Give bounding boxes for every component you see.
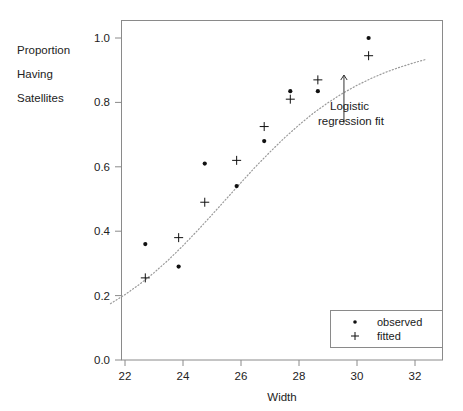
fitted-point [260, 122, 269, 131]
observed-series [143, 36, 371, 269]
observed-point [262, 139, 266, 143]
observed-point [143, 242, 147, 246]
fitted-point [232, 156, 241, 165]
x-tick-label: 28 [293, 370, 306, 382]
legend-observed-dot-icon [353, 320, 357, 324]
observed-point [288, 89, 292, 93]
fitted-point [141, 273, 150, 282]
chart-figure: Proportion Having Satellites 0.00.20.40.… [0, 0, 463, 411]
x-tick-label: 30 [351, 370, 364, 382]
x-tick-label: 32 [409, 370, 422, 382]
fitted-point [364, 51, 373, 60]
fitted-point [200, 198, 209, 207]
y-axis-ticks: 0.00.20.40.60.81.0 [94, 32, 122, 366]
legend-label-fitted: fitted [377, 330, 401, 342]
legend-label-observed: observed [377, 316, 422, 328]
legend: observed fitted [331, 311, 443, 348]
y-tick-label: 0.8 [94, 96, 110, 108]
fitted-point [286, 95, 295, 104]
plot-area: 0.00.20.40.60.81.0 222426283032 Logistic… [0, 0, 463, 411]
fitted-series [141, 51, 373, 282]
y-tick-label: 0.2 [94, 290, 110, 302]
observed-point [367, 36, 371, 40]
y-tick-label: 0.6 [94, 161, 110, 173]
plot-frame [122, 21, 443, 361]
annotation-line-2: regression fit [318, 115, 385, 127]
logistic-curve [111, 59, 427, 303]
x-axis-title: Width [267, 391, 296, 403]
y-tick-label: 0.4 [94, 225, 111, 237]
observed-point [203, 161, 207, 165]
fitted-point [174, 233, 183, 242]
observed-point [235, 184, 239, 188]
y-tick-label: 1.0 [94, 32, 110, 44]
x-axis-ticks: 222426283032 [119, 360, 422, 382]
annotation-line-1: Logistic [330, 100, 369, 112]
observed-point [177, 265, 181, 269]
x-tick-label: 24 [177, 370, 190, 382]
x-tick-label: 22 [119, 370, 132, 382]
observed-point [316, 89, 320, 93]
fitted-point [313, 75, 322, 84]
x-tick-label: 26 [235, 370, 248, 382]
y-tick-label: 0.0 [94, 354, 110, 366]
